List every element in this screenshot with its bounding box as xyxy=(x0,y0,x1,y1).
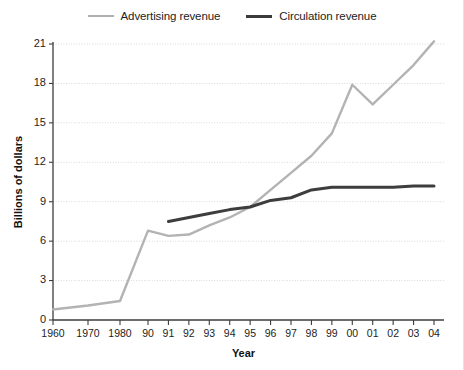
y-tick-label: 9 xyxy=(40,195,46,207)
x-tick-label: 01 xyxy=(367,327,379,339)
x-tick-label: 00 xyxy=(346,327,358,339)
x-tick-labels-group: 1960197019809091929394959697989900010203… xyxy=(41,327,440,339)
x-tick-label: 92 xyxy=(183,327,195,339)
plot-area: 036912151821 196019701980909192939495969… xyxy=(0,0,464,370)
x-tick-label: 93 xyxy=(203,327,215,339)
y-tick-label: 18 xyxy=(34,76,46,88)
x-tick-label: 94 xyxy=(224,327,236,339)
y-tick-label: 0 xyxy=(40,313,46,325)
x-tick-label: 1960 xyxy=(41,327,65,339)
x-tick-label: 96 xyxy=(265,327,277,339)
x-tick-marks-group xyxy=(53,320,434,325)
y-tick-label: 6 xyxy=(40,234,46,246)
chart-root: Advertising revenue Circulation revenue … xyxy=(0,0,464,370)
x-tick-label: 02 xyxy=(387,327,399,339)
y-tick-label: 3 xyxy=(40,273,46,285)
y-tick-labels-group: 036912151821 xyxy=(34,37,46,325)
y-tick-label: 21 xyxy=(34,37,46,49)
x-tick-label: 1980 xyxy=(108,327,132,339)
series-line-circulation xyxy=(168,186,434,221)
x-tick-label: 97 xyxy=(285,327,297,339)
x-tick-label: 90 xyxy=(142,327,154,339)
x-tick-label: 03 xyxy=(408,327,420,339)
y-axis-title: Billions of dollars xyxy=(12,136,24,228)
x-tick-label: 1970 xyxy=(76,327,100,339)
y-tick-label: 12 xyxy=(34,155,46,167)
x-tick-label: 99 xyxy=(326,327,338,339)
x-tick-label: 04 xyxy=(428,327,440,339)
x-axis-title: Year xyxy=(232,347,256,359)
gridlines-group xyxy=(53,44,444,281)
series-line-advertising xyxy=(53,41,434,309)
chart-svg: 036912151821 196019701980909192939495969… xyxy=(0,0,464,370)
x-tick-label: 98 xyxy=(306,327,318,339)
x-tick-label: 95 xyxy=(244,327,256,339)
y-tick-label: 15 xyxy=(34,116,46,128)
x-tick-label: 91 xyxy=(163,327,175,339)
